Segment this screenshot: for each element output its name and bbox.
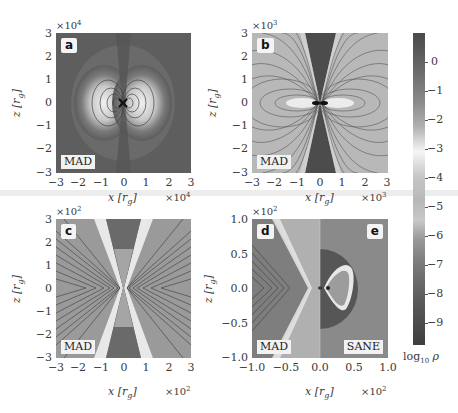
panel-a-xtick: −1 xyxy=(89,177,113,188)
panel-a-model-tag: MAD xyxy=(61,155,95,169)
panel-d-ylabel: z [rg] xyxy=(203,275,217,303)
panel-a-xlabel: x [rg] xyxy=(108,192,137,206)
panel-a-ytick: 2 xyxy=(24,51,52,62)
panel-c-xtick: 3 xyxy=(179,362,203,373)
scan-artifact xyxy=(0,190,458,196)
panel-d-ytick: 0.5 xyxy=(220,249,248,260)
panel-c-model-tag: MAD xyxy=(61,340,95,354)
panel-a-xtick: −3 xyxy=(44,177,68,188)
colorbar-tick: 0 xyxy=(431,56,438,67)
panel-b-xtick: 1 xyxy=(330,177,354,188)
panel-d-xlabel: x [rg] xyxy=(305,386,334,400)
panel-c-ytick: −2 xyxy=(24,329,52,340)
panel-c-xtick: 1 xyxy=(134,362,158,373)
panel-b-xtick: 3 xyxy=(375,177,399,188)
panel-d-xtick: 0.0 xyxy=(304,362,336,373)
panel-a-plot: a MAD xyxy=(56,33,191,173)
panel-b-ytick: 1 xyxy=(220,74,248,85)
panel-b-ytick: −1 xyxy=(220,120,248,131)
panel-c-ylabel: z [rg] xyxy=(11,275,25,303)
panel-d-xtick: 1.0 xyxy=(372,362,404,373)
colorbar-tick: −9 xyxy=(427,317,443,328)
panel-a-xtick: 3 xyxy=(179,177,203,188)
panel-d-y-multiplier: ×102 xyxy=(252,206,278,217)
panel-a-ytick: −2 xyxy=(24,143,52,154)
panel-d-ytick: −0.5 xyxy=(220,318,248,329)
panel-d-xtick: −1.0 xyxy=(236,362,268,373)
panel-e-letter: e xyxy=(367,224,383,239)
panel-b-xtick: −3 xyxy=(240,177,264,188)
panel-b-letter: b xyxy=(257,38,274,53)
panel-b-y-multiplier: ×103 xyxy=(252,20,278,31)
colorbar-tick: −2 xyxy=(427,114,443,125)
panel-b-xtick: 2 xyxy=(353,177,377,188)
panel-b-xtick: 0 xyxy=(308,177,332,188)
panel-b-ytick: 0 xyxy=(220,97,248,108)
colorbar-tick: −7 xyxy=(427,259,443,270)
panel-c-xtick: −3 xyxy=(44,362,68,373)
panel-d-xtick: −0.5 xyxy=(270,362,302,373)
panel-d-x-multiplier: ×102 xyxy=(361,386,387,397)
panel-e-model-tag: SANE xyxy=(344,340,383,354)
colorbar-gradient xyxy=(413,33,425,345)
panel-b-xtick: −2 xyxy=(262,177,286,188)
panel-a-ytick: 1 xyxy=(24,74,52,85)
colorbar-tick: −8 xyxy=(427,288,443,299)
panel-d-letter: d xyxy=(257,224,274,239)
panel-c-xtick: −2 xyxy=(66,362,90,373)
panel-de-plot: d e MAD SANE xyxy=(252,219,388,358)
panel-c-y-multiplier: ×102 xyxy=(56,206,82,217)
panel-b-ytick: 2 xyxy=(220,51,248,62)
colorbar-tick: −4 xyxy=(427,172,443,183)
panel-b-xtick: −1 xyxy=(285,177,309,188)
panel-d-ytick: 0.0 xyxy=(220,283,248,294)
colorbar-tick: −1 xyxy=(427,85,443,96)
panel-c-xtick: 0 xyxy=(112,362,136,373)
panel-b-ytick: 3 xyxy=(220,28,248,39)
panel-b-ylabel: z [rg] xyxy=(207,89,221,117)
colorbar-tick-mark xyxy=(425,62,428,63)
panel-c-letter: c xyxy=(61,224,76,239)
panel-c-ytick: 3 xyxy=(24,214,52,225)
panel-a-x-multiplier: ×104 xyxy=(165,192,191,203)
panel-b-xlabel: x [rg] xyxy=(305,192,334,206)
panel-b-ytick: −2 xyxy=(220,143,248,154)
panel-c-xlabel: x [rg] xyxy=(108,386,137,400)
panel-c-xtick: 2 xyxy=(157,362,181,373)
panel-a-ytick: −1 xyxy=(24,120,52,131)
panel-c-ytick: 1 xyxy=(24,260,52,271)
panel-c-x-multiplier: ×102 xyxy=(165,386,191,397)
panel-b-x-multiplier: ×103 xyxy=(361,192,387,203)
panel-a-xtick: −2 xyxy=(66,177,90,188)
colorbar-tick: −5 xyxy=(427,201,443,212)
panel-a-ylabel: z [rg] xyxy=(11,89,25,117)
colorbar-tick: −3 xyxy=(427,143,443,154)
colorbar-tick: −6 xyxy=(427,230,443,241)
panel-a-xtick: 1 xyxy=(134,177,158,188)
panel-d-model-tag: MAD xyxy=(257,340,291,354)
panel-a-xtick: 2 xyxy=(157,177,181,188)
panel-a-y-multiplier: ×104 xyxy=(56,20,82,31)
panel-b-model-tag: MAD xyxy=(257,155,291,169)
panel-a-ytick: 3 xyxy=(24,28,52,39)
panel-c-ytick: −1 xyxy=(24,306,52,317)
panel-c-xtick: −1 xyxy=(89,362,113,373)
panel-b-plot: b MAD xyxy=(252,33,388,173)
colorbar-label: log10 ρ xyxy=(403,351,439,365)
panel-c-plot: c MAD xyxy=(56,219,191,358)
panel-d-ytick: 1.0 xyxy=(220,214,248,225)
panel-a-ytick: 0 xyxy=(24,97,52,108)
panel-a-letter: a xyxy=(61,38,77,53)
panel-c-ytick: 2 xyxy=(24,237,52,248)
panel-a-xtick: 0 xyxy=(112,177,136,188)
panel-d-xtick: 0.5 xyxy=(338,362,370,373)
panel-c-ytick: 0 xyxy=(24,283,52,294)
